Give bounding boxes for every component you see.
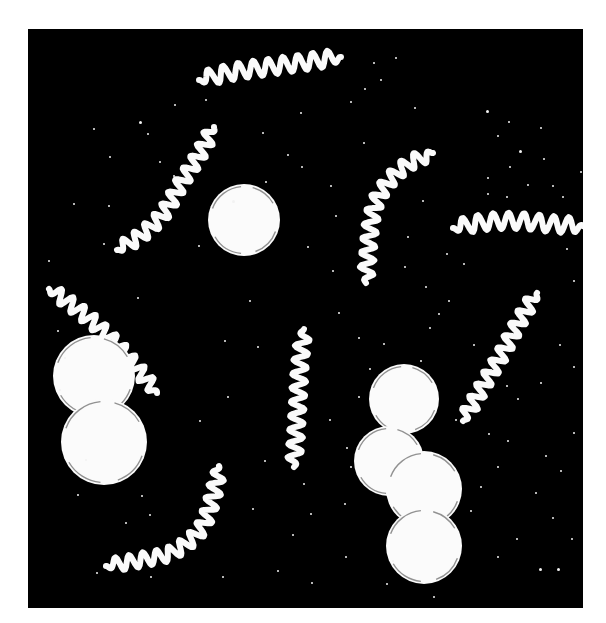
- solitary-coccus: [208, 184, 280, 256]
- spirochete-right-diagonal: [462, 293, 537, 421]
- spirochete-center-vertical: [288, 329, 310, 467]
- spirochete-upper-left-s: [117, 127, 215, 251]
- micrograph-plate: [28, 29, 583, 608]
- coccus-layer: [53, 184, 462, 584]
- diplococcus-lower: [61, 399, 147, 485]
- figure-root: [0, 0, 606, 623]
- chain-coccus-1: [369, 364, 439, 434]
- spirochete-bottom-left-hook: [106, 466, 224, 570]
- spirochete-right-horizontal: [453, 213, 583, 233]
- chain-coccus-4: [386, 508, 462, 584]
- micrograph-svg: [28, 29, 583, 608]
- spirochete-upper-right-hook: [360, 152, 433, 283]
- spirochete-layer: [49, 51, 583, 570]
- spirochete-top: [199, 51, 341, 83]
